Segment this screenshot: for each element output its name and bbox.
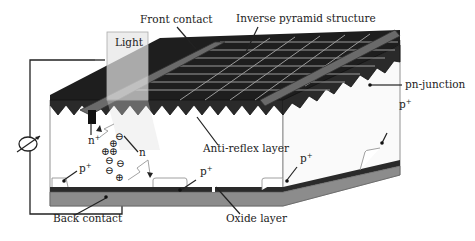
label-back-contact: Back contact (53, 212, 123, 224)
n-plus-region (88, 110, 96, 124)
electron-icon: ⊖ (115, 130, 124, 142)
label-light: Light (115, 36, 144, 48)
meter-icon (17, 136, 40, 152)
hole-icon: ⊕ (115, 171, 124, 183)
label-oxide-layer: Oxide layer (226, 212, 288, 224)
label-anti-reflex: Anti-reflex layer (202, 142, 290, 154)
electron-icon: ⊖ (116, 157, 125, 169)
label-p-plus-far-right: p+ (399, 98, 412, 110)
label-n: n (139, 146, 146, 158)
solar-cell-diagram: ⊕ ⊖ ⊕ ⊕ ⊖ ⊖ ⊖ ⊕ Front (0, 0, 475, 241)
label-front-contact: Front contact (140, 13, 213, 25)
label-pn-junction: pn-junction (405, 78, 466, 90)
label-inverse-pyramid: Inverse pyramid structure (236, 12, 376, 24)
electron-icon: ⊖ (105, 164, 114, 176)
